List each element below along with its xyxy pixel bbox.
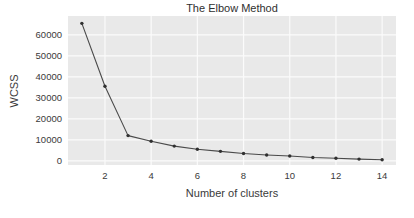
x-tick-label: 14 [377,170,388,181]
x-tick-label: 8 [241,170,246,181]
data-point [334,157,337,160]
x-axis-label: Number of clusters [186,187,279,199]
data-point [311,156,314,159]
data-point [265,153,268,156]
data-point [196,148,199,151]
chart-figure: 2468101214 01000020000300004000050000600… [0,0,414,218]
x-tick-label: 10 [284,170,295,181]
y-tick-label: 30000 [36,92,62,103]
y-tick-label: 50000 [36,50,62,61]
elbow-method-line-chart: 2468101214 01000020000300004000050000600… [0,0,414,218]
data-point [149,140,152,143]
y-tick-label: 40000 [36,71,62,82]
x-tick-label: 6 [195,170,200,181]
y-axis-label: WCSS [8,75,20,108]
data-point [173,144,176,147]
y-tick-label: 10000 [36,134,62,145]
data-point [126,134,129,137]
data-point [380,158,383,161]
data-point [288,154,291,157]
x-tick-label: 2 [102,170,107,181]
y-tick-label: 0 [57,155,62,166]
data-point [80,22,83,25]
y-tick-label: 20000 [36,113,62,124]
x-tick-label: 4 [149,170,154,181]
y-tick-label: 60000 [36,29,62,40]
chart-title: The Elbow Method [186,2,278,14]
plot-area-background [68,16,396,165]
data-point [357,157,360,160]
data-point [242,152,245,155]
data-point [219,150,222,153]
data-point [103,85,106,88]
x-tick-label: 12 [331,170,342,181]
